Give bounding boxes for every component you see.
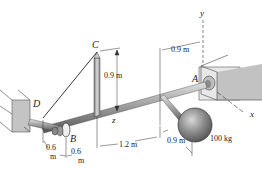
b-to-arm-dimension: 1.2 m [119,141,137,149]
point-a-label: A [192,74,198,84]
point-b-label: B [70,134,76,144]
d-to-b-dimension-a: 0.6 [46,144,56,152]
post-c [94,58,100,117]
mass-label: 100 kg [210,135,232,143]
a-offset-dimension: 0.9 m [171,46,189,54]
d-to-b-dimension-b-unit: m [78,157,84,165]
x-axis-label: x [250,110,254,119]
y-axis-label: y [200,9,204,18]
left-wall-block [0,90,30,132]
right-wall-block [199,55,262,100]
diagram: C D B A y x z 0.9 m 0.9 m 0.6 m 0.6 m 1.… [0,0,262,169]
d-to-b-dimension-a-unit: m [50,153,56,161]
point-d-label: D [33,99,40,109]
cable-cd [43,52,97,118]
point-c-label: C [92,40,99,50]
z-axis-label: z [112,116,116,125]
d-to-b-dimension-b: 0.6 [71,148,81,156]
post-height-dimension: 0.9 m [104,72,122,80]
arm-length-dimension: 0.9 m [167,137,185,145]
